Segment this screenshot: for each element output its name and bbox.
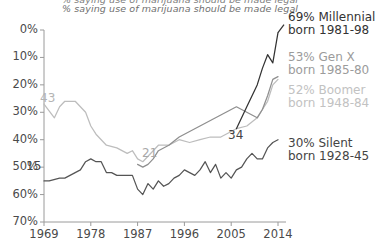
- x-tick-label: 1996: [170, 227, 199, 241]
- x-tick-label: 1987: [123, 227, 152, 241]
- millennial-start-value: 34: [228, 128, 243, 142]
- boomer-start-value: 43: [40, 91, 55, 105]
- legend-silent-value: 30% Silent: [288, 137, 369, 150]
- legend-item-genx[interactable]: 53% Gen X born 1985-80: [288, 51, 369, 76]
- y-tick-label: 30%: [0, 104, 38, 118]
- x-tick-label: 2005: [217, 227, 246, 241]
- series-line-silent: [44, 140, 278, 195]
- legend-genx-value: 53% Gen X: [288, 51, 369, 64]
- x-tick-label: 1969: [29, 227, 58, 241]
- legend-item-millennial[interactable]: 69% Millennial born 1981-98: [288, 11, 375, 36]
- series-line-gen-x: [138, 77, 278, 168]
- y-tick-label: 10%: [0, 49, 38, 63]
- x-tick-marks: [44, 222, 278, 226]
- y-tick-label: 20%: [0, 77, 38, 91]
- genx-start-value: 21: [142, 146, 157, 160]
- x-tick-label: 2014: [263, 227, 292, 241]
- x-tick-label: 1978: [76, 227, 105, 241]
- silent-start-value: 15: [26, 159, 41, 173]
- legend-leader-lines: [278, 25, 284, 33]
- y-tick-label: 40%: [0, 132, 38, 146]
- millennial-leader-line: [278, 25, 284, 33]
- y-tick-marks: [40, 30, 44, 222]
- legend-millennial-born: born 1981-98: [288, 24, 375, 37]
- y-tick-label: 60%: [0, 187, 38, 201]
- legend-item-silent[interactable]: 30% Silent born 1928-45: [288, 137, 369, 162]
- legend-silent-born: born 1928-45: [288, 150, 369, 163]
- axis-group: [40, 30, 286, 226]
- legend-millennial-value: 69% Millennial: [288, 11, 375, 24]
- series-lines: [44, 33, 278, 195]
- legend-genx-born: born 1985-80: [288, 64, 369, 77]
- legend-boomer-born: born 1948-84: [288, 97, 369, 110]
- y-tick-label: 70%: [0, 214, 38, 228]
- legend-item-boomer[interactable]: 52% Boomer born 1948-84: [288, 84, 369, 109]
- legend-boomer-value: 52% Boomer: [288, 84, 369, 97]
- y-tick-label: 0%: [0, 22, 38, 36]
